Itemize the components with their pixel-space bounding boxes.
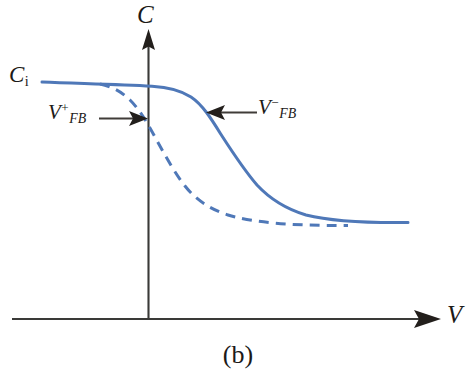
- vfb-minus-label: V−FB: [258, 96, 296, 121]
- ci-label: Ci: [9, 63, 29, 89]
- capacitance-axis-symbol: C: [137, 1, 154, 28]
- vfb-plus-superscript: +: [61, 100, 68, 115]
- capacitance-axis-label: C: [137, 2, 154, 27]
- vfb-plus-subscript: FB: [69, 111, 86, 126]
- solid-cv-curve: [42, 82, 408, 223]
- voltage-axis-symbol: V: [447, 301, 462, 328]
- annotation-arrows-group: [99, 105, 257, 126]
- curves-group: [42, 82, 408, 226]
- ci-subscript: i: [25, 73, 29, 89]
- vfb-minus-superscript: −: [271, 95, 278, 110]
- ci-base: C: [9, 62, 24, 87]
- axes-group: [12, 29, 441, 328]
- dashed-cv-curve: [100, 84, 348, 226]
- vfb-plus-label: V+FB: [48, 101, 86, 126]
- vfb-plus-base: V: [48, 100, 61, 124]
- voltage-axis-label: V: [447, 302, 462, 327]
- cv-hysteresis-plot: [0, 0, 476, 377]
- figure-caption: (b): [0, 342, 476, 368]
- vfb-minus-subscript: FB: [279, 106, 296, 121]
- vfb-minus-base: V: [258, 95, 271, 119]
- figure-container: C V Ci V+FB V−FB (b): [0, 0, 476, 377]
